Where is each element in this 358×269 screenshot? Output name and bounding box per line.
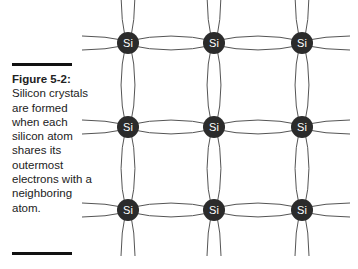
electron-bond	[207, 43, 212, 127]
silicon-atom-r2c2: Si	[203, 116, 225, 138]
atom-symbol: Si	[209, 204, 219, 216]
electron-bond	[207, 127, 212, 210]
electron-bond	[128, 212, 214, 217]
electron-bond	[128, 203, 214, 208]
silicon-atom-r2c1: Si	[117, 116, 139, 138]
electron-bond	[128, 129, 214, 134]
electron-bond	[128, 45, 214, 50]
atom-symbol: Si	[123, 37, 133, 49]
silicon-atom-r1c3: Si	[291, 32, 313, 54]
atom-symbol: Si	[209, 121, 219, 133]
silicon-atom-r1c2: Si	[203, 32, 225, 54]
atom-symbol: Si	[297, 37, 307, 49]
silicon-atom-r2c3: Si	[291, 116, 313, 138]
atom-symbol: Si	[297, 204, 307, 216]
silicon-atom-r3c1: Si	[117, 199, 139, 221]
electron-bond	[214, 129, 302, 134]
electron-bond	[128, 120, 214, 125]
electron-bond	[214, 45, 302, 50]
electron-bond	[214, 212, 302, 217]
electron-bond	[130, 43, 135, 127]
electron-bond	[214, 203, 302, 208]
electron-bond	[216, 127, 221, 210]
electron-bond	[130, 127, 135, 210]
electron-bond	[295, 43, 300, 127]
electron-bond	[128, 36, 214, 41]
electron-bond	[304, 127, 309, 210]
silicon-lattice-diagram: SiSiSiSiSiSiSiSiSi	[0, 0, 358, 269]
electron-bond	[214, 36, 302, 41]
silicon-atom-r1c1: Si	[117, 32, 139, 54]
electron-bond	[304, 43, 309, 127]
atom-symbol: Si	[123, 204, 133, 216]
electron-bond	[295, 127, 300, 210]
silicon-atom-r3c2: Si	[203, 199, 225, 221]
atom-symbol: Si	[123, 121, 133, 133]
atom-symbol: Si	[297, 121, 307, 133]
silicon-atom-r3c3: Si	[291, 199, 313, 221]
electron-bond	[121, 127, 126, 210]
electron-bond	[121, 43, 126, 127]
atom-symbol: Si	[209, 37, 219, 49]
electron-bond	[214, 120, 302, 125]
electron-bond	[216, 43, 221, 127]
